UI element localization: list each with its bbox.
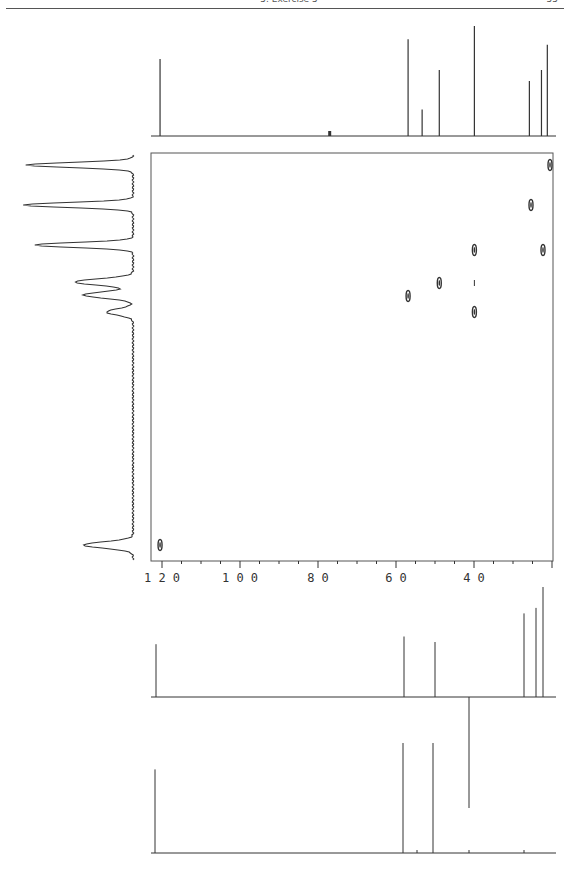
cross-peak-core	[542, 247, 544, 253]
proton-trace	[23, 155, 134, 560]
x-axis: 1 2 01 0 08 06 04 0	[144, 561, 552, 585]
cross-peak-core	[530, 202, 532, 208]
cross-peak-core	[438, 280, 440, 286]
correlation-map-frame	[151, 153, 553, 561]
correlation-map	[151, 153, 553, 561]
x-tick-label: 6 0	[385, 571, 407, 585]
x-tick-label: 8 0	[307, 571, 329, 585]
x-tick-label: 4 0	[463, 571, 485, 585]
solvent-peak	[328, 131, 331, 136]
cross-peak-core	[474, 309, 476, 315]
cross-peak-core	[474, 247, 476, 253]
nmr-figure: 1 2 01 0 08 06 04 0	[0, 0, 578, 884]
cross-peak-core	[407, 293, 409, 299]
dept-135-spectrum	[151, 587, 556, 808]
x-tick-label: 1 2 0	[144, 571, 180, 585]
cross-peaks	[158, 160, 552, 551]
proton-spectrum	[23, 155, 134, 560]
dept-90-spectrum	[151, 743, 556, 853]
cross-peak-core	[549, 162, 551, 168]
carbon-13-spectrum	[151, 26, 556, 136]
x-tick-label: 1 0 0	[222, 571, 258, 585]
cross-peak-core	[159, 542, 161, 548]
